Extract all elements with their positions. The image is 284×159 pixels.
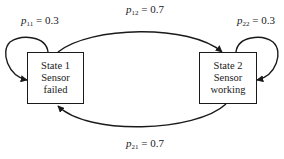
state-2-title: State 2 [214,60,243,72]
state-1-title: State 1 [41,60,70,72]
label-p12: p12 = 0.7 [126,3,164,17]
state-2-line2: Sensor [214,72,243,84]
state-2-line3: working [211,84,246,96]
arc-arrow-p21 [58,104,226,127]
state-1-box: State 1 Sensor failed [27,52,84,104]
label-p11: p11 = 0.3 [21,14,59,28]
state-1-line2: Sensor [41,72,70,84]
state-1-line3: failed [44,84,68,96]
state-2-box: State 2 Sensor working [199,52,257,104]
arc-arrow-p12 [58,32,222,52]
label-p22: p22 = 0.3 [237,14,275,28]
label-p21: p21 = 0.7 [126,137,164,151]
